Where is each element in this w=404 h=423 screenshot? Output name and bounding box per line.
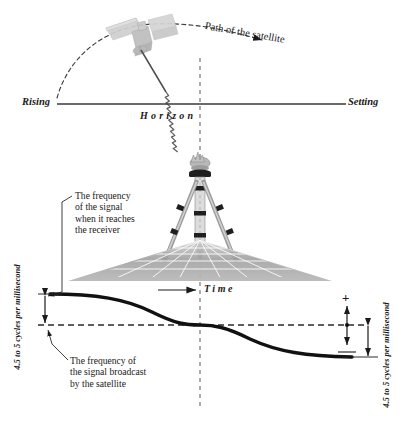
broadcast-frequency-annotation: The frequency of the signal broadcast by…	[70, 355, 146, 389]
perspective-ground-grid	[60, 240, 344, 281]
received-frequency-annotation: The frequency of the signal when it reac…	[75, 190, 135, 235]
midline-marker-dot	[345, 323, 349, 327]
broadcast-frequency-leader	[48, 330, 68, 360]
signal-beam-line	[141, 50, 166, 92]
horizon-label: Horizon	[140, 110, 196, 122]
setting-label: Setting	[348, 96, 378, 108]
doppler-frequency-curve	[50, 294, 352, 357]
left-y-axis-label: 4.5 to 5 cycles per millisecond	[12, 257, 22, 377]
wavy-signal-icon	[165, 92, 178, 152]
positive-doppler-sign: +	[342, 290, 349, 305]
time-axis-label: Time	[204, 283, 235, 295]
negative-doppler-sign: –	[342, 348, 349, 363]
right-y-axis-label: 4.5 to 5 cycles per millisecond	[381, 295, 391, 415]
rising-label: Rising	[22, 96, 50, 108]
satellite-icon	[106, 14, 178, 56]
